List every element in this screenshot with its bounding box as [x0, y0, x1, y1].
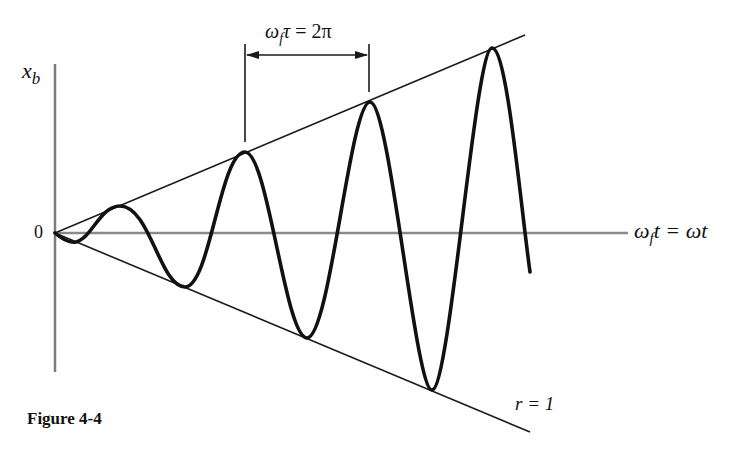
period-omega: ω	[265, 20, 279, 42]
period-sub: f	[279, 31, 283, 46]
arrowhead-left-icon	[246, 51, 259, 59]
y-axis-label: xb	[22, 58, 40, 84]
upper-envelope-line	[55, 35, 525, 233]
origin-label: 0	[34, 222, 43, 243]
figure-caption: Figure 4-4	[27, 409, 102, 429]
period-annotation: ωfτ = 2π	[265, 20, 332, 43]
x-axis-label-rhs: = ωt	[665, 218, 707, 243]
figure-canvas	[0, 0, 741, 450]
arrowhead-right-icon	[355, 51, 368, 59]
period-tau: τ	[283, 20, 290, 42]
x-axis-label-omega: ω	[634, 218, 650, 243]
y-axis-label-main: x	[22, 58, 32, 83]
x-axis-label-var: t	[654, 218, 660, 243]
y-axis-label-sub: b	[32, 69, 41, 88]
period-rhs: = 2π	[295, 20, 331, 42]
x-axis-label: ωft = ωt	[634, 218, 707, 244]
lower-envelope-line	[55, 233, 530, 432]
envelope-label: r = 1	[515, 393, 554, 415]
x-axis-label-sub: f	[650, 230, 654, 246]
response-curve	[55, 48, 530, 390]
